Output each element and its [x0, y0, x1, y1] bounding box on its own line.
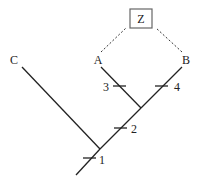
tick-3-label: 3 [103, 80, 109, 94]
tick-2-label: 2 [131, 122, 137, 136]
cladogram: Z C A B 3 4 2 1 [0, 0, 199, 183]
tick-4-label: 4 [174, 80, 180, 94]
taxon-c-label: C [10, 53, 18, 67]
taxon-b-label: B [182, 53, 190, 67]
dashed-link-b-z [156, 28, 182, 52]
ancestor-z-label: Z [137, 12, 144, 26]
branch-root [76, 149, 100, 175]
tick-1-label: 1 [99, 153, 105, 167]
branch-c [22, 67, 100, 149]
dashed-link-a-z [101, 28, 126, 52]
taxon-a-label: A [94, 53, 103, 67]
